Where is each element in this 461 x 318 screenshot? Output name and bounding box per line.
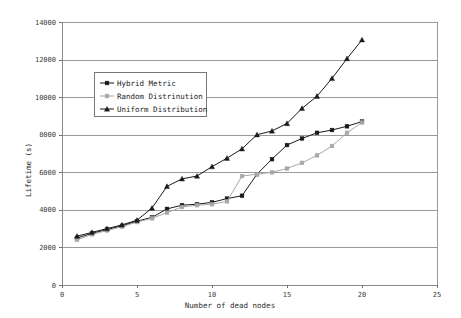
x-axis-tick-labels: 0510152025 bbox=[60, 291, 441, 299]
x-tick-label: 10 bbox=[208, 291, 216, 299]
data-point-marker bbox=[209, 164, 214, 169]
data-point-marker bbox=[315, 153, 319, 157]
data-point-marker bbox=[330, 128, 334, 132]
data-point-marker bbox=[255, 172, 259, 176]
y-tick-label: 14000 bbox=[35, 19, 56, 27]
x-tick-label: 5 bbox=[135, 291, 139, 299]
series-2 bbox=[75, 121, 364, 242]
data-point-marker bbox=[165, 211, 169, 215]
y-tick-label: 6000 bbox=[39, 169, 56, 177]
data-point-marker bbox=[345, 124, 349, 128]
data-point-marker bbox=[300, 137, 304, 141]
series-1 bbox=[75, 120, 364, 240]
data-point-marker bbox=[240, 194, 244, 198]
legend-item-label: Hybrid Metric bbox=[117, 79, 176, 88]
y-axis-title: Lifetime (s) bbox=[24, 143, 33, 197]
data-point-marker bbox=[105, 81, 109, 85]
y-tick-label: 2000 bbox=[39, 244, 56, 252]
data-point-marker bbox=[330, 144, 334, 148]
chart-legend: Hybrid MetricRandom DistrinutionUniform … bbox=[95, 73, 208, 117]
x-tick-label: 0 bbox=[60, 291, 64, 299]
data-point-marker bbox=[164, 184, 169, 189]
y-tick-label: 12000 bbox=[35, 56, 56, 64]
data-point-marker bbox=[360, 121, 364, 125]
series-line bbox=[77, 123, 362, 240]
legend-item-label: Uniform Distribution bbox=[117, 105, 207, 114]
chart-canvas: 02000400060008000100001200014000 0510152… bbox=[0, 0, 461, 318]
plot-frame bbox=[62, 22, 438, 286]
data-point-marker bbox=[105, 94, 109, 98]
data-point-marker bbox=[285, 167, 289, 171]
y-tick-label: 4000 bbox=[39, 206, 56, 214]
data-point-marker bbox=[194, 173, 199, 178]
legend-item-label: Random Distrinution bbox=[117, 92, 203, 101]
x-axis-title: Number of dead nodes bbox=[185, 301, 275, 310]
data-point-marker bbox=[240, 174, 244, 178]
y-tick-label: 8000 bbox=[39, 131, 56, 139]
data-point-marker bbox=[270, 170, 274, 174]
data-point-marker bbox=[270, 157, 274, 161]
data-point-marker bbox=[225, 200, 229, 204]
data-point-marker bbox=[195, 203, 199, 207]
y-axis-tick-labels: 02000400060008000100001200014000 bbox=[35, 19, 56, 290]
axis-ticks bbox=[59, 23, 438, 289]
x-tick-label: 20 bbox=[358, 291, 366, 299]
series-line bbox=[77, 40, 362, 236]
legend-item-3[interactable]: Uniform Distribution bbox=[100, 105, 207, 114]
data-point-marker bbox=[345, 131, 349, 135]
data-point-marker bbox=[150, 216, 154, 220]
series-3 bbox=[74, 37, 364, 238]
data-point-marker bbox=[300, 161, 304, 165]
x-tick-label: 25 bbox=[433, 291, 441, 299]
data-point-marker bbox=[315, 131, 319, 135]
grid-lines bbox=[62, 23, 437, 248]
data-point-marker bbox=[224, 156, 229, 161]
data-point-marker bbox=[359, 37, 364, 42]
series-line bbox=[77, 122, 362, 238]
y-tick-label: 0 bbox=[52, 282, 56, 290]
data-point-marker bbox=[269, 128, 274, 133]
data-point-marker bbox=[165, 207, 169, 211]
data-point-marker bbox=[285, 143, 289, 147]
data-point-marker bbox=[75, 238, 79, 242]
data-point-marker bbox=[180, 205, 184, 209]
line-chart: 02000400060008000100001200014000 0510152… bbox=[0, 0, 461, 318]
data-series-layer bbox=[74, 37, 364, 242]
x-tick-label: 15 bbox=[283, 291, 291, 299]
y-tick-label: 10000 bbox=[35, 94, 56, 102]
data-point-marker bbox=[210, 202, 214, 206]
